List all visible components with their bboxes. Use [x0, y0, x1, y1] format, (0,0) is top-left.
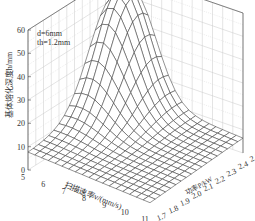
y-tick-label: 2.2: [214, 174, 227, 186]
parameter-annotation: d=6mm th=1.2mm: [37, 29, 70, 47]
z-tick-label: 60: [17, 26, 25, 35]
y-tick-label: 2.5: [248, 152, 255, 164]
z-tick-label: 10: [17, 143, 25, 152]
y-tick-label: 1.8: [167, 203, 180, 215]
y-tick-label: 1.7: [155, 211, 168, 221]
annotation-diameter: d=6mm: [37, 29, 70, 38]
z-tick-label: 20: [17, 119, 25, 128]
z-tick-label: 40: [17, 73, 25, 82]
z-axis-label: 基体熔化深度h/mm: [4, 51, 14, 118]
annotation-thickness: th=1.2mm: [37, 38, 70, 47]
y-tick-label: 1.9: [179, 196, 192, 208]
x-tick-label: 11: [141, 215, 149, 221]
x-tick-label: 10: [121, 208, 129, 217]
x-tick-label: 6: [41, 180, 45, 189]
y-tick-label: 2.4: [237, 159, 250, 171]
y-tick-label: 2.3: [225, 167, 238, 179]
z-tick-label: 30: [17, 96, 25, 105]
x-tick-label: 5: [21, 173, 25, 182]
z-tick-label: 50: [17, 49, 25, 58]
